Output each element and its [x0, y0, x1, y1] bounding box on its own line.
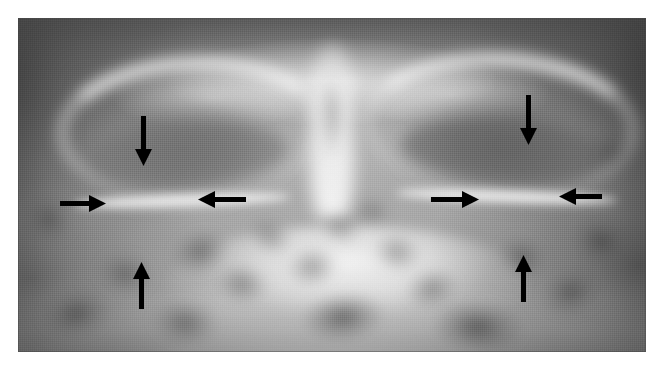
radiograph-image	[18, 18, 646, 352]
radiograph-figure	[0, 0, 656, 375]
film-vignette	[18, 18, 646, 352]
